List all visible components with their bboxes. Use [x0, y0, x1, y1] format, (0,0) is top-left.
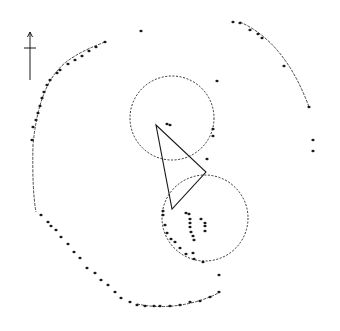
- stone-dot: [87, 50, 90, 53]
- lower-dashed-circle: [162, 175, 248, 261]
- stone-dot: [188, 222, 191, 225]
- stone-dot: [46, 221, 49, 224]
- stone-dot: [45, 84, 48, 87]
- stone-dot: [211, 135, 214, 138]
- stone-dot: [106, 284, 109, 287]
- stone-dot: [203, 230, 206, 233]
- stone-dot: [178, 247, 181, 250]
- stone-dot: [188, 218, 191, 221]
- stone-dot: [260, 37, 263, 40]
- stone-dot: [191, 252, 194, 255]
- stone-dot: [54, 229, 57, 232]
- stone-dot: [73, 59, 76, 62]
- stones: [30, 21, 314, 308]
- stone-dot: [72, 251, 75, 254]
- stone-dot: [42, 91, 45, 94]
- stone-dot: [36, 112, 39, 115]
- stone-dot: [66, 243, 69, 246]
- dashed-circles: [130, 76, 248, 261]
- stone-dot: [85, 267, 88, 270]
- stone-dot: [78, 257, 81, 260]
- plan-canvas: [0, 0, 340, 331]
- stone-dot: [217, 274, 220, 277]
- stone-dot: [256, 33, 259, 36]
- stone-dot: [192, 258, 195, 261]
- stone-dot: [49, 225, 52, 228]
- stone-dot: [203, 222, 206, 225]
- stone-dot: [40, 97, 43, 100]
- stone-dot: [173, 241, 176, 244]
- stone-dot: [188, 226, 191, 229]
- stone-dot: [38, 105, 41, 108]
- stone-dot: [203, 225, 206, 228]
- stone-dot: [103, 41, 106, 44]
- stone-dot: [311, 150, 314, 153]
- stone-dot: [168, 124, 171, 127]
- stone-dot: [94, 46, 97, 49]
- stone-dot: [192, 239, 195, 242]
- stone-dot: [178, 304, 181, 307]
- stone-dot: [282, 65, 285, 68]
- stone-dot: [139, 30, 142, 33]
- stone-dot: [128, 301, 131, 304]
- stone-dot: [99, 279, 102, 282]
- triangle-outline: [156, 125, 206, 209]
- stone-dot: [238, 22, 241, 25]
- stone-dot: [161, 214, 164, 217]
- stone-dot: [158, 305, 161, 308]
- stone-dot: [59, 236, 62, 239]
- stone-dot: [163, 224, 166, 227]
- stone-dot: [169, 238, 172, 241]
- stone-dot: [165, 123, 168, 126]
- stone-dot: [188, 301, 191, 304]
- stone-dot: [187, 213, 190, 216]
- stone-dot: [168, 305, 171, 308]
- stone-dot: [55, 72, 58, 75]
- stone-arcs: [33, 22, 309, 307]
- south-arc: [137, 292, 220, 307]
- stone-dot: [184, 253, 187, 256]
- stone-dot: [191, 235, 194, 238]
- stone-dot: [165, 232, 168, 235]
- stone-dot: [30, 139, 33, 142]
- triangle: [156, 125, 206, 209]
- stone-dot: [135, 304, 138, 307]
- stone-dot: [152, 305, 155, 308]
- stone-dot: [48, 79, 51, 82]
- stone-dot: [119, 297, 122, 300]
- stone-dot: [199, 218, 202, 221]
- stone-dot: [80, 55, 83, 58]
- stone-dot: [201, 261, 204, 264]
- stone-dot: [39, 214, 42, 217]
- stone-dot: [184, 212, 187, 215]
- north-arrow-icon: [24, 32, 36, 80]
- stone-dot: [215, 80, 218, 83]
- stone-dot: [66, 63, 69, 66]
- stone-dot: [113, 291, 116, 294]
- stone-dot: [217, 291, 220, 294]
- stone-dot: [31, 126, 34, 129]
- stone-dot: [248, 29, 251, 32]
- stone-dot: [189, 231, 192, 234]
- upper-dashed-circle: [130, 76, 214, 160]
- stone-dot: [231, 21, 234, 24]
- stone-dot: [34, 119, 37, 122]
- west-arc: [33, 42, 105, 212]
- site-plan-diagram: [0, 0, 340, 331]
- northeast-arc: [240, 22, 309, 107]
- stone-dot: [307, 106, 310, 109]
- stone-dot: [208, 296, 211, 299]
- stone-dot: [161, 210, 164, 213]
- stone-dot: [205, 158, 208, 161]
- stone-dot: [198, 300, 201, 303]
- stone-dot: [93, 272, 96, 275]
- stone-dot: [58, 69, 61, 72]
- stone-dot: [211, 128, 214, 131]
- stone-dot: [311, 139, 314, 142]
- stone-dot: [143, 305, 146, 308]
